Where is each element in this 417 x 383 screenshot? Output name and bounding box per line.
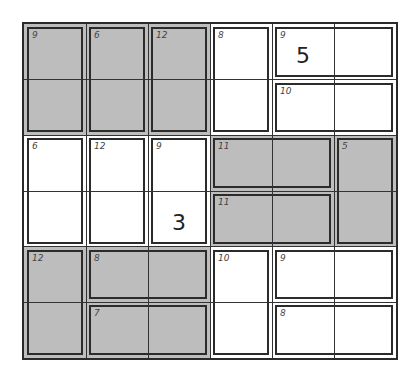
cage-sum: 6 xyxy=(32,141,38,151)
cell-r3-c2[interactable]: 3 xyxy=(148,195,210,251)
cage-sum: 11 xyxy=(218,141,229,151)
grid-line-horizontal xyxy=(24,246,396,247)
cell-r0-c4[interactable]: 5 xyxy=(272,28,334,84)
cage-sum: 12 xyxy=(94,141,105,151)
grid-line-horizontal xyxy=(24,135,396,136)
cage-sum: 6 xyxy=(94,30,100,40)
cage-sum: 10 xyxy=(218,253,229,263)
killer-sudoku-board: 961289106129111151287109853 xyxy=(22,22,398,360)
cage-sum: 5 xyxy=(342,141,348,151)
cage-sum: 9 xyxy=(32,30,38,40)
grid-line-horizontal xyxy=(24,302,396,303)
cage-sum: 10 xyxy=(280,86,291,96)
cage-sum: 9 xyxy=(280,253,286,263)
grid-line-horizontal xyxy=(24,79,396,80)
cage-sum: 8 xyxy=(218,30,224,40)
cage-sum: 7 xyxy=(94,308,100,318)
cage-sum: 9 xyxy=(156,141,162,151)
cage-sum: 11 xyxy=(218,197,229,207)
cage-sum: 12 xyxy=(32,253,43,263)
cage-sum: 12 xyxy=(156,30,167,40)
cage-sum: 8 xyxy=(280,308,286,318)
cage-sum: 8 xyxy=(94,253,100,263)
grid-line-horizontal xyxy=(24,191,396,192)
